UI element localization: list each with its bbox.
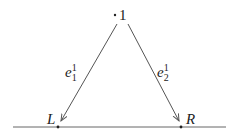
node-1-dot [114,14,116,16]
edge-1-to-R [128,24,179,121]
diagram-canvas [0,0,236,138]
node-L-label: L [47,112,55,127]
node-R-label: R [186,112,195,127]
edge-label-e11: e11 [65,65,77,80]
node-1-label: 1 [119,8,127,23]
node-R-dot [180,126,183,129]
node-L-dot [57,126,60,129]
edge-label-e21: e12 [157,65,169,80]
